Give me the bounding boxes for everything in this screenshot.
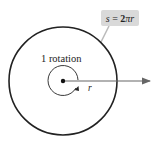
radius-label: r	[88, 83, 92, 93]
formula-var: r	[130, 13, 134, 24]
formula-leader-line	[101, 26, 109, 42]
center-point	[61, 79, 65, 83]
rotation-label: 1 rotation	[41, 53, 82, 64]
arc-length-formula: s = 2 π r	[101, 10, 139, 26]
formula-equals: =	[110, 13, 121, 24]
